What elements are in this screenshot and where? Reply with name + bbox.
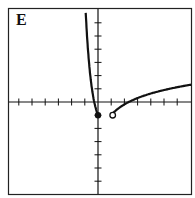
graph-panel <box>0 0 195 198</box>
open-endpoint <box>110 112 116 118</box>
closed-endpoint <box>95 112 101 118</box>
axes <box>9 9 191 194</box>
panel-label: E <box>16 11 27 29</box>
